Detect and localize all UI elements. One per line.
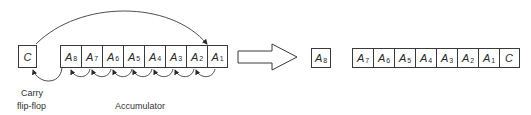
shift-arc-arrow [196, 69, 215, 77]
result-cell: A2 [457, 48, 478, 68]
shift-arc-arrow [92, 69, 111, 77]
accumulator-cell-a5: A5 [123, 45, 144, 68]
result-cell: A6 [373, 48, 394, 68]
result-cell: A3 [436, 48, 457, 68]
accumulator-cell-a2: A2 [186, 45, 207, 68]
carry-label-line2: flip-flop [17, 101, 46, 111]
result-cell: A1 [478, 48, 499, 68]
result-cell: A7 [352, 48, 373, 68]
shift-arc-arrow [71, 69, 90, 77]
result-register: A7 A6 A5 A4 A3 A2 A1 C [352, 48, 520, 68]
a8-to-carry-arc-arrow [33, 68, 62, 81]
result-carry-cell-a8: A8 [311, 48, 331, 68]
shift-arc-arrow [113, 69, 132, 77]
carry-flip-flop-cell: C [18, 45, 37, 68]
carry-to-a1-arc-arrow [36, 11, 207, 44]
shift-arc-arrow [175, 69, 194, 77]
accumulator-register: A8 A7 A6 A5 A4 A3 A2 A1 [60, 45, 228, 68]
accumulator-cell-a8: A8 [60, 45, 81, 68]
accumulator-cell-a7: A7 [81, 45, 102, 68]
result-cell: A4 [415, 48, 436, 68]
accumulator-cell-a3: A3 [165, 45, 186, 68]
result-cell: A5 [394, 48, 415, 68]
cell-letter: C [24, 51, 32, 63]
carry-label-line1: Carry [21, 88, 43, 98]
accumulator-cell-a1: A1 [207, 45, 228, 68]
accumulator-cell-a4: A4 [144, 45, 165, 68]
result-cell-carry: C [499, 48, 520, 68]
accumulator-label: Accumulator [115, 101, 165, 111]
shift-arc-arrow [154, 69, 173, 77]
accumulator-cell-a6: A6 [102, 45, 123, 68]
shift-arc-arrow [133, 69, 152, 77]
transform-block-arrow [238, 44, 297, 70]
